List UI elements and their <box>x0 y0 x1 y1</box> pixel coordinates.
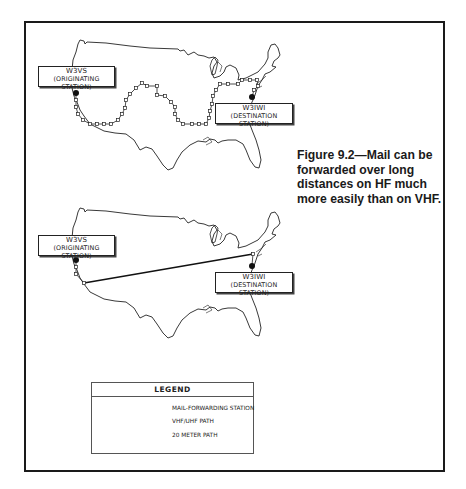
origin-callsign: W3VS <box>39 236 114 244</box>
caption-line: Figure 9.2—Mail can be <box>297 148 447 163</box>
caption-line: distances on HF much <box>297 177 447 192</box>
origin-station-label: W3VS (ORIGINATING STATION) <box>38 66 115 87</box>
caption-line: more easily than on VHF. <box>297 192 447 207</box>
destination-station-label: W3IWI (DESTINATION STATION) <box>215 103 293 124</box>
destination-callsign: W3IWI <box>216 273 292 281</box>
origin-role: (ORIGINATING STATION) <box>53 244 99 260</box>
destination-station-dot <box>249 263 255 269</box>
destination-station-dot <box>249 94 255 100</box>
origin-station-label: W3VS (ORIGINATING STATION) <box>38 235 115 256</box>
origin-role: (ORIGINATING STATION) <box>53 75 99 91</box>
legend-label-20-meter-path: 20 METER PATH <box>172 432 218 438</box>
legend-title: LEGEND <box>92 383 253 397</box>
origin-callsign: W3VS <box>39 67 114 75</box>
destination-station-label: W3IWI (DESTINATION STATION) <box>215 272 293 293</box>
destination-callsign: W3IWI <box>216 104 292 112</box>
legend-label-vhf-uhf-path: VHF/UHF PATH <box>172 418 214 424</box>
destination-role: (DESTINATION STATION) <box>231 281 278 297</box>
legend-label-mail-forwarding-station: MAIL-FORWARDING STATION <box>172 405 254 411</box>
caption-line: forwarded over long <box>297 163 447 178</box>
legend-box: LEGEND MAIL-FORWARDING STATION VHF/UHF P… <box>91 382 254 454</box>
figure-caption: Figure 9.2—Mail can be forwarded over lo… <box>297 148 447 206</box>
destination-role: (DESTINATION STATION) <box>231 112 278 128</box>
